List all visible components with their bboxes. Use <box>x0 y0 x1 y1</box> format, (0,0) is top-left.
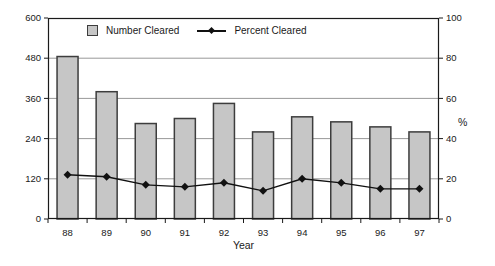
bar-96 <box>370 127 391 219</box>
legend-label-percent-cleared: Percent Cleared <box>234 25 306 36</box>
bar-swatch-icon <box>87 25 98 36</box>
bar-88 <box>57 57 78 219</box>
legend-item-percent-cleared: Percent Cleared <box>197 25 306 36</box>
x-tick-label-95: 95 <box>336 227 347 238</box>
x-axis-title: Year <box>48 239 439 251</box>
y-tick-label-left-240: 240 <box>25 133 41 144</box>
clearance-chart-figure: 0120240360480600020406080100888990919293… <box>0 0 495 266</box>
y-tick-label-left-600: 600 <box>25 12 41 23</box>
y-tick-label-left-480: 480 <box>25 52 41 63</box>
bar-89 <box>96 92 117 219</box>
y-tick-label-left-0: 0 <box>36 213 41 224</box>
x-tick-label-88: 88 <box>62 227 73 238</box>
legend-label-number-cleared: Number Cleared <box>106 25 179 36</box>
y-tick-label-right-60: 60 <box>446 93 457 104</box>
bar-95 <box>331 122 352 219</box>
x-tick-label-90: 90 <box>140 227 151 238</box>
bar-91 <box>174 119 195 220</box>
x-tick-label-93: 93 <box>258 227 269 238</box>
y-tick-label-right-40: 40 <box>446 133 457 144</box>
x-tick-label-91: 91 <box>180 227 191 238</box>
x-tick-label-94: 94 <box>297 227 308 238</box>
legend-item-number-cleared: Number Cleared <box>87 25 179 36</box>
y-tick-label-left-120: 120 <box>25 173 41 184</box>
legend: Number Cleared Percent Cleared <box>87 25 307 36</box>
bar-92 <box>213 103 234 219</box>
bar-90 <box>135 124 156 219</box>
x-tick-label-89: 89 <box>101 227 112 238</box>
bar-93 <box>253 132 274 219</box>
line-diamond-icon <box>197 25 226 36</box>
y-tick-label-right-80: 80 <box>446 52 457 63</box>
right-axis-title: % <box>458 116 467 128</box>
y-tick-label-right-0: 0 <box>446 213 451 224</box>
x-tick-label-92: 92 <box>219 227 230 238</box>
percent-cleared-line <box>68 175 420 191</box>
bar-94 <box>292 117 313 219</box>
y-tick-label-right-100: 100 <box>446 12 462 23</box>
x-tick-label-97: 97 <box>414 227 425 238</box>
plot-area: 0120240360480600020406080100888990919293… <box>0 0 495 266</box>
x-tick-label-96: 96 <box>375 227 386 238</box>
y-tick-label-left-360: 360 <box>25 93 41 104</box>
bar-97 <box>409 132 430 219</box>
y-tick-label-right-20: 20 <box>446 173 457 184</box>
